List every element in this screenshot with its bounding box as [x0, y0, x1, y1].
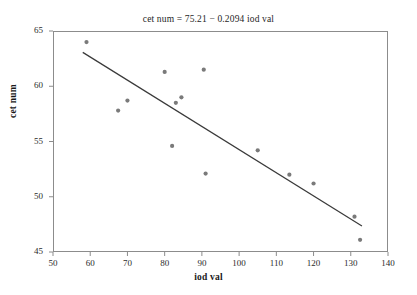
y-tick-label: 65	[17, 25, 43, 35]
data-point	[358, 238, 362, 242]
data-point	[125, 99, 129, 103]
y-tick-label: 50	[17, 191, 43, 201]
data-point	[116, 108, 120, 112]
data-point	[170, 144, 174, 148]
data-point	[179, 95, 183, 99]
data-point	[311, 181, 315, 185]
x-tick-label: 120	[294, 258, 334, 268]
x-tick-label: 100	[219, 258, 259, 268]
plot-canvas	[0, 0, 417, 295]
x-tick-label: 110	[256, 258, 296, 268]
data-point	[287, 173, 291, 177]
x-tick-label: 70	[107, 258, 147, 268]
x-axis-ticks	[53, 252, 388, 256]
data-point	[163, 70, 167, 74]
data-point	[204, 171, 208, 175]
data-points-group	[84, 40, 362, 242]
y-axis-ticks	[49, 31, 53, 252]
regression-line	[83, 52, 362, 226]
regression-line-group	[83, 52, 362, 226]
x-tick-label: 90	[182, 258, 222, 268]
x-tick-label: 50	[33, 258, 73, 268]
y-tick-label: 60	[17, 80, 43, 90]
x-tick-label: 140	[368, 258, 408, 268]
data-point	[202, 68, 206, 72]
x-axis-title: iod val	[0, 272, 417, 282]
data-point	[174, 101, 178, 105]
data-point	[256, 148, 260, 152]
x-tick-label: 130	[331, 258, 371, 268]
x-tick-label: 80	[145, 258, 185, 268]
y-axis-title: cet num	[8, 84, 18, 118]
y-tick-label: 55	[17, 136, 43, 146]
scatter-plot-figure: cet num = 75.21 − 0.2094 iod val 5060708…	[0, 0, 417, 295]
y-tick-label: 45	[17, 246, 43, 256]
x-tick-label: 60	[70, 258, 110, 268]
data-point	[84, 40, 88, 44]
data-point	[352, 215, 356, 219]
